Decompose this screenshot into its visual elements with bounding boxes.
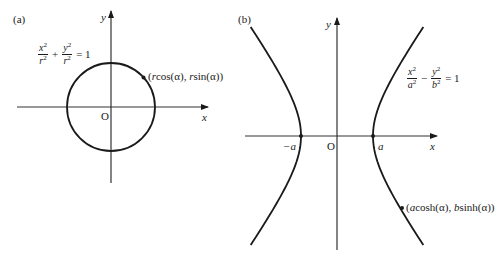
panel-a-origin-label: O	[101, 111, 109, 122]
panel-a-y-label: y	[101, 12, 106, 23]
circle-eq-op: +	[52, 48, 58, 60]
vertex-pos-a	[371, 134, 375, 138]
circle-point	[142, 76, 146, 80]
panel-a-x-label: x	[202, 112, 207, 123]
diagram-canvas	[0, 0, 504, 261]
panel-b-x-label: x	[430, 141, 435, 152]
panel-b-origin-label: O	[327, 141, 335, 152]
hyperbola-point	[400, 206, 404, 210]
panel-a-tag: (a)	[13, 13, 25, 25]
circle-eq-term1: x2 r2	[38, 42, 48, 66]
hyperbola-eq-term1: x2 a2	[407, 66, 417, 90]
hyperbola-eq-term2: y2 b2	[431, 66, 441, 90]
hyperbola-eq-rhs: = 1	[445, 72, 459, 84]
hyperbola-eq-op: −	[421, 72, 427, 84]
neg-a-label: −a	[283, 141, 296, 152]
panel-b-graphics	[245, 18, 437, 250]
hyperbola-point-label: (acosh(α), bsinh(α))	[406, 202, 495, 213]
panel-b-y-label: y	[326, 19, 331, 30]
circle-point-label: (rcos(α), rsin(α))	[148, 71, 223, 82]
panel-b-tag: (b)	[238, 13, 251, 25]
circle-equation: x2 r2 + y2 r2 = 1	[38, 42, 91, 66]
circle-eq-term2: y2 r2	[62, 42, 72, 66]
circle-eq-rhs: = 1	[76, 48, 90, 60]
hyperbola-equation: x2 a2 − y2 b2 = 1	[407, 66, 460, 90]
pos-a-label: a	[378, 141, 384, 152]
vertex-neg-a	[299, 134, 303, 138]
panel-a-graphics	[17, 11, 208, 183]
